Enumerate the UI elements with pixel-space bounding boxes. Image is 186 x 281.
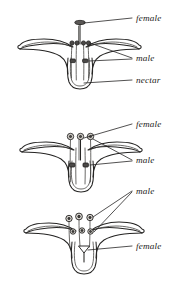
flower-anatomy-figure: female male nectar bbox=[0, 0, 186, 281]
filament-3a bbox=[69, 221, 70, 248]
petal-right-1 bbox=[86, 39, 141, 49]
stigma-2-center bbox=[79, 135, 81, 137]
anther-3e-center bbox=[81, 230, 83, 232]
leader-female-1 bbox=[84, 18, 132, 23]
figure-canvas: female male nectar bbox=[0, 0, 186, 281]
corolla-right-2 bbox=[93, 152, 140, 177]
anther-1b bbox=[75, 41, 79, 45]
anther-3b-center bbox=[78, 215, 80, 217]
panel-3-drawing: male female bbox=[24, 186, 162, 274]
anther-1a bbox=[70, 41, 74, 45]
label-male-2: male bbox=[136, 155, 154, 165]
corolla-left-1 bbox=[20, 49, 68, 74]
anther-low-2b bbox=[83, 163, 88, 167]
anther-low-1a bbox=[70, 59, 75, 63]
label-female-2: female bbox=[136, 119, 161, 129]
leader-female-3 bbox=[88, 246, 132, 250]
anther-low-2a bbox=[70, 163, 75, 167]
stigma-1 bbox=[75, 20, 85, 24]
anther-2a-center bbox=[69, 135, 71, 137]
corolla-left-2 bbox=[22, 152, 69, 177]
corolla-right-1 bbox=[92, 49, 139, 74]
label-female-1: female bbox=[136, 13, 161, 23]
panel-2-drawing: female male bbox=[20, 119, 162, 192]
anther-3f-center bbox=[90, 231, 92, 233]
anther-3a-center bbox=[68, 217, 70, 219]
label-male-3: male bbox=[136, 186, 154, 196]
label-nectar-1: nectar bbox=[136, 75, 161, 85]
anther-1c bbox=[81, 41, 85, 45]
anther-3d-center bbox=[72, 231, 74, 233]
stigma-3 bbox=[79, 246, 90, 253]
anther-3c-center bbox=[89, 216, 91, 218]
leader-female-2 bbox=[84, 124, 132, 138]
panel-1-drawing: female male nectar bbox=[18, 13, 162, 89]
label-male-1: male bbox=[136, 53, 154, 63]
anther-low-1b bbox=[83, 59, 88, 63]
label-female-3: female bbox=[136, 241, 161, 251]
corolla-left-3 bbox=[26, 233, 72, 258]
